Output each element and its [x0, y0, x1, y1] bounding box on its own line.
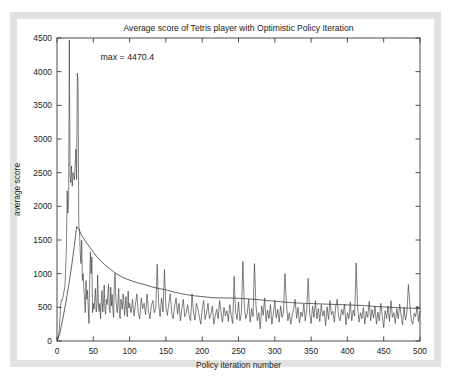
x-tick-label: 500 — [413, 346, 427, 356]
x-tick-label: 450 — [377, 346, 391, 356]
plot-axes-box — [57, 38, 420, 341]
y-tick-label: 3500 — [33, 100, 52, 110]
x-tick-label: 200 — [195, 346, 209, 356]
x-tick-label: 250 — [232, 346, 246, 356]
y-axis-label: average score — [12, 163, 22, 216]
x-tick-label: 50 — [89, 346, 99, 356]
max-annotation: max = 4470.4 — [101, 52, 155, 62]
chart-title: Average score of Tetris player with Opti… — [124, 23, 354, 33]
x-axis-label: Policy iteration number — [196, 360, 281, 370]
x-tick-label: 350 — [304, 346, 318, 356]
y-tick-label: 2500 — [33, 168, 52, 178]
y-tick-label: 4500 — [33, 33, 52, 43]
x-tick-label: 150 — [159, 346, 173, 356]
y-tick-label: 1000 — [33, 269, 52, 279]
y-tick-label: 0 — [47, 336, 52, 346]
x-tick-label: 400 — [340, 346, 354, 356]
y-tick-label: 500 — [38, 302, 52, 312]
x-tick-label: 100 — [123, 346, 137, 356]
x-tick-label: 300 — [268, 346, 282, 356]
y-tick-label: 3000 — [33, 134, 52, 144]
plot-area — [57, 38, 420, 341]
chart-canvas: Average score of Tetris player with Opti… — [0, 0, 451, 384]
x-tick-label: 0 — [55, 346, 60, 356]
y-tick-label: 1500 — [33, 235, 52, 245]
y-tick-label: 2000 — [33, 201, 52, 211]
y-tick-label: 4000 — [33, 67, 52, 77]
